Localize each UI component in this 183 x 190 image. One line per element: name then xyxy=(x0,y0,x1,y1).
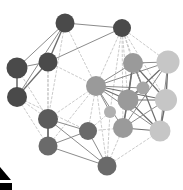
graph-edge xyxy=(96,86,107,166)
network-graph-canvas xyxy=(0,0,183,190)
graph-node[interactable] xyxy=(7,87,27,107)
graph-node[interactable] xyxy=(38,109,58,129)
graph-node[interactable] xyxy=(118,90,139,111)
graph-node[interactable] xyxy=(123,53,143,73)
graph-node[interactable] xyxy=(157,51,180,74)
bar-marker-icon xyxy=(0,183,12,190)
graph-node[interactable] xyxy=(113,19,131,37)
graph-node[interactable] xyxy=(79,122,97,140)
annotation-layer xyxy=(0,167,12,190)
graph-node[interactable] xyxy=(86,76,106,96)
graph-node[interactable] xyxy=(113,118,133,138)
node-layer xyxy=(7,14,180,176)
network-graph-figure xyxy=(0,0,183,190)
graph-edge xyxy=(65,23,96,86)
graph-node[interactable] xyxy=(137,82,150,95)
triangle-marker-icon xyxy=(0,167,11,180)
graph-node[interactable] xyxy=(98,157,117,176)
graph-edge xyxy=(48,28,122,62)
graph-node[interactable] xyxy=(56,14,75,33)
graph-node[interactable] xyxy=(150,121,171,142)
graph-node[interactable] xyxy=(39,53,58,72)
graph-node[interactable] xyxy=(155,89,177,111)
graph-node[interactable] xyxy=(39,137,58,156)
graph-node[interactable] xyxy=(7,58,28,79)
graph-node[interactable] xyxy=(104,106,116,118)
